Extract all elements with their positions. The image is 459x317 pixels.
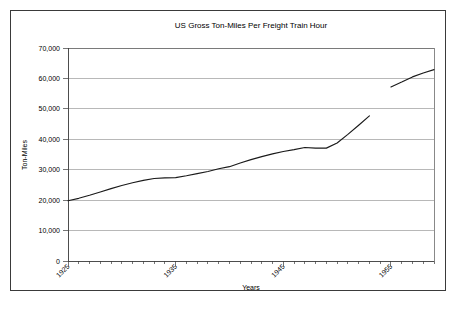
chart-figure: US Gross Ton-Miles Per Freight Train Hou… [0, 0, 459, 317]
x-axis-ticks [68, 261, 434, 266]
y-axis-tick-labels: 70,000 60,000 50,000 40,000 30,000 20,00… [39, 45, 61, 265]
y-tick-label: 70,000 [39, 45, 61, 52]
x-tick-label-1925: 1925 [55, 263, 71, 279]
line-chart: US Gross Ton-Miles Per Freight Train Hou… [0, 0, 459, 317]
y-axis-title: Ton-Miles [21, 140, 28, 170]
y-tick-label: 30,000 [39, 166, 61, 173]
y-axis-ticks [63, 48, 68, 261]
plot-background [68, 48, 434, 261]
y-tick-label: 50,000 [39, 105, 61, 112]
y-tick-label: 40,000 [39, 136, 61, 143]
y-tick-label: 0 [56, 258, 60, 265]
x-axis-tick-labels: 1925 1935 1945 1955 [55, 263, 394, 279]
chart-title: US Gross Ton-Miles Per Freight Train Hou… [175, 21, 328, 30]
x-axis-title: Years [242, 284, 260, 291]
y-tick-label: 60,000 [39, 75, 61, 82]
y-tick-label: 10,000 [39, 227, 61, 234]
y-tick-label: 20,000 [39, 197, 61, 204]
